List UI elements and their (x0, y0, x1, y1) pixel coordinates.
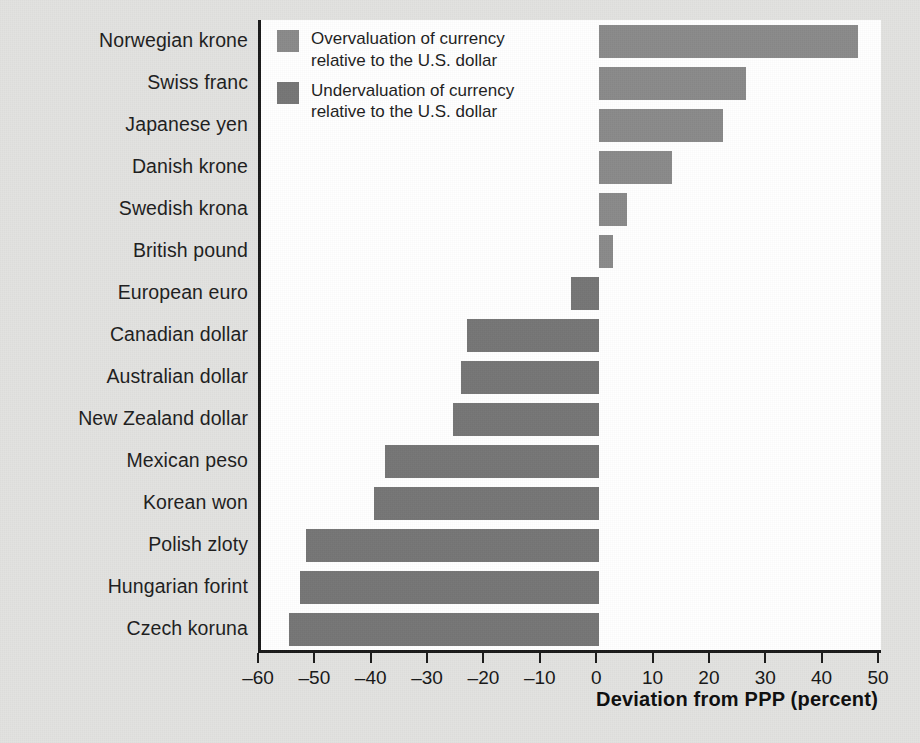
x-axis-tick (426, 653, 428, 663)
x-axis-tick-label: 10 (642, 668, 663, 687)
x-axis-tick (764, 653, 766, 663)
y-axis-label: Czech koruna (0, 619, 248, 639)
x-axis-tick (595, 653, 597, 663)
bar (374, 487, 599, 520)
y-axis-label: Swiss franc (0, 73, 248, 93)
x-axis-title: Deviation from PPP (percent) (596, 688, 878, 711)
legend-swatch-undervaluation-icon (277, 82, 299, 104)
x-axis-tick (708, 653, 710, 663)
x-axis-tick-label: 20 (698, 668, 719, 687)
x-axis-tick (539, 653, 541, 663)
x-axis-tick-label: 50 (867, 668, 888, 687)
x-axis-tick-label: –50 (299, 668, 331, 687)
y-axis-label: Japanese yen (0, 115, 248, 135)
legend-label-overvaluation: Overvaluation of currency relative to th… (311, 28, 505, 72)
bar (599, 67, 746, 100)
x-axis-tick (652, 653, 654, 663)
y-axis-label: European euro (0, 283, 248, 303)
y-axis-label: Polish zloty (0, 535, 248, 555)
y-axis-label: Norwegian krone (0, 31, 248, 51)
x-axis-tick-label: 40 (811, 668, 832, 687)
bar (306, 529, 599, 562)
bar (453, 403, 600, 436)
x-axis-tick-label: –40 (355, 668, 387, 687)
x-axis-tick-label: –20 (468, 668, 500, 687)
x-axis-tick-label: –30 (411, 668, 443, 687)
y-axis-label: Danish krone (0, 157, 248, 177)
bar (599, 25, 858, 58)
bar (599, 151, 672, 184)
bar (385, 445, 599, 478)
y-axis-label: Mexican peso (0, 451, 248, 471)
y-axis-category-labels: Norwegian kroneSwiss francJapanese yenDa… (0, 20, 248, 650)
legend-item-overvaluation: Overvaluation of currency relative to th… (277, 28, 577, 72)
x-axis-tick-label: –60 (242, 668, 274, 687)
bar (599, 109, 723, 142)
y-axis-label: Canadian dollar (0, 325, 248, 345)
x-axis-tick-label: 0 (591, 668, 602, 687)
y-axis-label: British pound (0, 241, 248, 261)
legend-swatch-overvaluation-icon (277, 30, 299, 52)
x-axis-tick (370, 653, 372, 663)
y-axis-label: Korean won (0, 493, 248, 513)
bar (599, 235, 613, 268)
y-axis-label: Swedish krona (0, 199, 248, 219)
bar (467, 319, 599, 352)
x-axis-tick (257, 653, 259, 663)
plot-area: Overvaluation of currency relative to th… (258, 20, 881, 653)
y-axis-label: Australian dollar (0, 367, 248, 387)
y-axis-label: Hungarian forint (0, 577, 248, 597)
chart-legend: Overvaluation of currency relative to th… (277, 28, 577, 131)
x-axis-tick (482, 653, 484, 663)
x-axis-tick-label: 30 (755, 668, 776, 687)
bar (300, 571, 599, 604)
bar (599, 193, 627, 226)
bar (571, 277, 599, 310)
x-axis-tick (877, 653, 879, 663)
x-axis-tick (821, 653, 823, 663)
bar (461, 361, 599, 394)
legend-item-undervaluation: Undervaluation of currency relative to t… (277, 80, 577, 124)
x-axis-tick-label: –10 (524, 668, 556, 687)
x-axis-tick (313, 653, 315, 663)
chart-figure: Norwegian kroneSwiss francJapanese yenDa… (0, 0, 920, 743)
bar (289, 613, 599, 646)
legend-label-undervaluation: Undervaluation of currency relative to t… (311, 80, 514, 124)
y-axis-label: New Zealand dollar (0, 409, 248, 429)
